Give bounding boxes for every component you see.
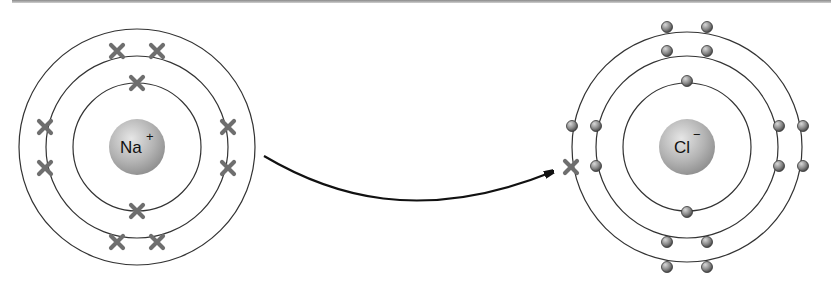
na-charge: + (146, 129, 154, 144)
electron-dot-icon (591, 161, 602, 172)
electron-dot-icon (702, 22, 713, 33)
electron-cross-icon (222, 121, 234, 133)
electron-dot-icon (591, 121, 602, 132)
electron-dot-icon (774, 121, 785, 132)
electron-dot-icon (662, 46, 673, 57)
electron-dot-icon (798, 121, 809, 132)
electron-dot-icon (774, 161, 785, 172)
electron-dot-icon (662, 237, 673, 248)
electron-cross-icon (111, 45, 123, 57)
sodium-atom: Na + (19, 29, 255, 265)
ionic-bond-diagram: Na + Cl − (0, 0, 831, 290)
electron-cross-icon (151, 236, 163, 248)
cl-symbol: Cl (674, 138, 690, 157)
cl-charge: − (693, 127, 701, 142)
electron-dot-icon (682, 207, 693, 218)
electron-cross-icon (151, 45, 163, 57)
electron-dot-icon (682, 76, 693, 87)
electron-cross-icon (39, 121, 51, 133)
chlorine-atom: Cl − (565, 22, 809, 273)
transferred-electron-cross-icon (565, 161, 577, 173)
electron-dot-icon (798, 161, 809, 172)
electron-transfer-arrow (264, 156, 552, 201)
electron-cross-icon (39, 162, 51, 174)
electron-dot-icon (702, 237, 713, 248)
electron-dot-icon (702, 46, 713, 57)
electron-dot-icon (662, 22, 673, 33)
electron-dot-icon (567, 121, 578, 132)
electron-dot-icon (662, 262, 673, 273)
na-symbol: Na (120, 138, 142, 157)
electron-dot-icon (702, 262, 713, 273)
electron-cross-icon (111, 236, 123, 248)
electron-cross-icon (222, 162, 234, 174)
